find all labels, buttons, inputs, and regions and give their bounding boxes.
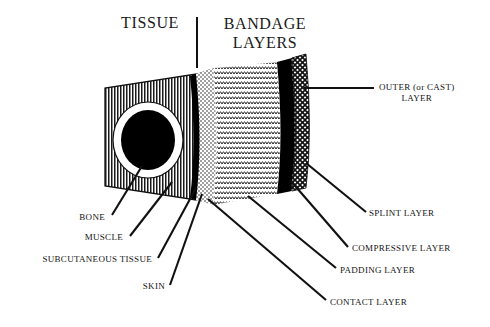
leader-contact [208, 199, 326, 300]
heading-bandage-line2: LAYERS [205, 33, 325, 52]
heading-divider [196, 17, 198, 68]
leader-padding [248, 196, 336, 268]
label-outer-line1: OUTER (or CAST) [379, 82, 455, 93]
heading-tissue: TISSUE [110, 14, 190, 32]
label-splint-layer: SPLINT LAYER [369, 208, 434, 219]
tissue-block [100, 60, 205, 210]
leader-splint [306, 163, 366, 212]
label-skin: SKIN [0, 281, 165, 292]
label-outer-layer: OUTER (or CAST) LAYER [379, 82, 455, 104]
heading-bandage-line1: BANDAGE [205, 14, 325, 33]
padding-layer [208, 55, 286, 213]
label-subcutaneous-tissue: SUBCUTANEOUS TISSUE [0, 254, 152, 265]
label-padding-layer: PADDING LAYER [340, 265, 415, 276]
label-bone: BONE [0, 212, 105, 223]
label-muscle: MUSCLE [0, 232, 123, 243]
heading-bandage-layers: BANDAGE LAYERS [205, 14, 325, 52]
label-outer-line2: LAYER [379, 93, 455, 104]
leader-subcutaneous [158, 188, 196, 258]
bone-core [121, 110, 175, 170]
diagram-page: TISSUE BANDAGE LAYERS OUTER (or CAST) LA… [0, 0, 490, 327]
label-contact-layer: CONTACT LAYER [330, 297, 407, 308]
label-compressive-layer: COMPRESSIVE LAYER [352, 243, 451, 254]
